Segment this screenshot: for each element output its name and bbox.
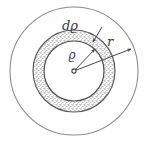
inner-radius-label: ϱ	[68, 48, 75, 62]
shell-thickness-label: dϱ	[62, 18, 78, 33]
outer-radius-label: r	[107, 34, 114, 49]
figure-canvas: dϱ r ϱ	[0, 0, 150, 144]
shell-diagram: dϱ r ϱ	[0, 0, 150, 144]
center-point	[72, 69, 76, 73]
